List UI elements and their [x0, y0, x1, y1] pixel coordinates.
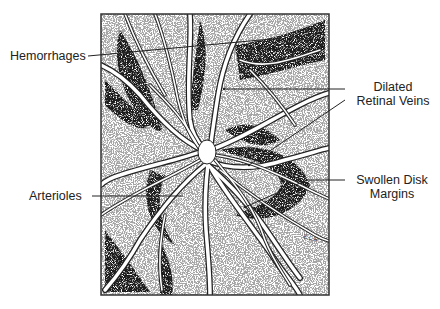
label-arterioles-text: Arterioles: [29, 189, 82, 203]
label-swollen-line2: Margins: [344, 187, 440, 201]
label-swollen-disk-margins: Swollen Disk Margins: [344, 173, 440, 201]
label-swollen-line1: Swollen Disk: [344, 173, 440, 187]
label-arterioles: Arterioles: [29, 189, 82, 203]
label-dilated-retinal-veins: Dilated Retinal Veins: [346, 80, 440, 108]
label-dilated-line2: Retinal Veins: [346, 94, 440, 108]
label-dilated-line1: Dilated: [346, 80, 440, 94]
retina-illustration: E.L.R.: [0, 0, 440, 309]
label-hemorrhages-text: Hemorrhages: [10, 49, 86, 63]
label-hemorrhages: Hemorrhages: [10, 49, 86, 63]
